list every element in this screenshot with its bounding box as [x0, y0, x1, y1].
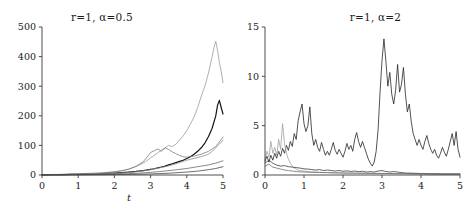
trace-3: [265, 160, 460, 174]
x-tick-label: 2: [111, 180, 117, 191]
chart-panel-left: r=1, α=0.5 0100200300400500012345 t: [0, 0, 236, 210]
figure-container: r=1, α=0.5 0100200300400500012345 t r=1,…: [0, 0, 471, 210]
x-tick-label: 4: [184, 180, 190, 191]
y-tick-label: 500: [18, 21, 36, 32]
x-tick-label: 5: [220, 180, 226, 191]
trace-1: [265, 39, 460, 166]
panel-left-plot: 0100200300400500012345: [0, 0, 236, 210]
x-tick-label: 4: [418, 180, 424, 191]
y-tick-label: 10: [247, 71, 259, 82]
x-tick-label: 1: [75, 180, 81, 191]
y-tick-label: 100: [18, 140, 36, 151]
x-tick-label: 5: [457, 180, 463, 191]
trace-1: [42, 41, 223, 174]
y-tick-label: 400: [18, 51, 36, 62]
y-tick-label: 200: [18, 110, 36, 121]
x-tick-label: 0: [39, 180, 45, 191]
y-tick-label: 15: [247, 21, 259, 32]
x-tick-label: 2: [340, 180, 346, 191]
panel-right-plot: 051015012345: [236, 0, 471, 210]
chart-panel-right: r=1, α=2 051015012345 t: [236, 0, 471, 210]
trace-3: [42, 137, 223, 175]
x-tick-label: 3: [148, 180, 154, 191]
x-tick-label: 3: [379, 180, 385, 191]
y-tick-label: 5: [253, 120, 259, 131]
trace-4: [265, 164, 460, 174]
trace-4: [42, 140, 223, 175]
panel-left-xaxis-label: t: [127, 192, 131, 203]
x-tick-label: 1: [301, 180, 307, 191]
x-tick-label: 0: [262, 180, 268, 191]
y-tick-label: 0: [253, 169, 259, 180]
y-tick-label: 0: [30, 169, 36, 180]
y-tick-label: 300: [18, 81, 36, 92]
